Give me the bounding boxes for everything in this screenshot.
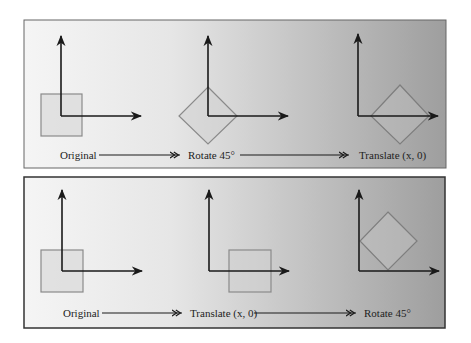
label-original: Original	[63, 307, 100, 319]
label-translate: Translate (x, 0)	[190, 307, 257, 320]
label-rotate: Rotate 45°	[188, 149, 235, 161]
panel-rotate-then-translate: Original Rotate 45° Translate (x, 0)	[24, 20, 446, 168]
label-translate: Translate (x, 0)	[359, 149, 426, 162]
label-rotate: Rotate 45°	[364, 307, 411, 319]
panel-background	[24, 20, 446, 168]
panel-translate-then-rotate: Original Translate (x, 0) Rotate 45°	[24, 177, 445, 328]
label-original: Original	[60, 149, 97, 161]
transform-order-diagram: Original Rotate 45° Translate (x, 0) Ori…	[0, 0, 471, 343]
